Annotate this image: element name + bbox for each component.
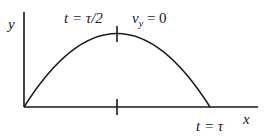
x-axis-label: x: [243, 112, 250, 127]
end-time-label: t = τ: [196, 119, 223, 134]
peak-time-label: t = τ/2: [64, 11, 103, 26]
velocity-var: v: [132, 10, 139, 26]
velocity-value: = 0: [143, 10, 166, 26]
y-axis-label: y: [8, 17, 15, 32]
peak-velocity-label: vy = 0: [132, 11, 167, 29]
trajectory-arc: [24, 34, 210, 108]
